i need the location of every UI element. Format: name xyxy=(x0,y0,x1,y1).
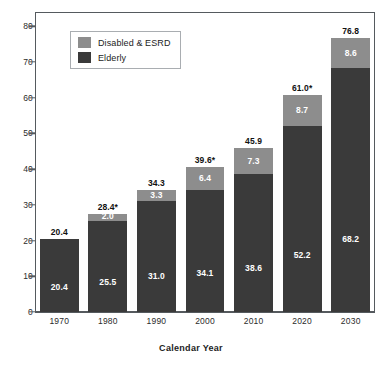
bar-group[interactable]: 38.67.345.9 xyxy=(234,12,273,312)
bar-value-label-disabled-esrd: 3.3 xyxy=(137,190,176,200)
x-axis-tick-label: 2010 xyxy=(229,316,278,326)
x-axis-tick-label: 1990 xyxy=(132,316,181,326)
x-axis-tick-label: 2030 xyxy=(326,316,375,326)
bar-segment-elderly[interactable]: 38.6 xyxy=(234,174,273,312)
bar-group[interactable]: 52.28.761.0* xyxy=(283,12,322,312)
bar-segment-elderly[interactable]: 52.2 xyxy=(283,126,322,312)
chart-legend: Disabled & ESRD Elderly xyxy=(70,31,181,69)
bar-segment-disabled-esrd[interactable]: 2.0 xyxy=(88,214,127,221)
bar-segment-disabled-esrd[interactable]: 3.3 xyxy=(137,190,176,202)
bar-value-label-disabled-esrd: 7.3 xyxy=(234,156,273,166)
bar-value-label-disabled-esrd: 8.7 xyxy=(283,105,322,115)
bar-value-label-disabled-esrd: 2.0 xyxy=(88,211,127,221)
legend-label-elderly: Elderly xyxy=(98,53,126,63)
bar-value-label-elderly: 31.0 xyxy=(137,271,176,281)
bar-segment-disabled-esrd[interactable]: 6.4 xyxy=(186,167,225,190)
x-axis-tick-label: 2020 xyxy=(278,316,327,326)
bar-total-label: 20.4 xyxy=(40,227,79,237)
bar-total-label: 34.3 xyxy=(137,178,176,188)
bar-segment-disabled-esrd[interactable]: 8.7 xyxy=(283,95,322,126)
bar-value-label-elderly: 38.6 xyxy=(234,263,273,273)
legend-item-elderly: Elderly xyxy=(78,52,171,63)
bar-segment-elderly[interactable]: 20.4 xyxy=(40,239,79,312)
bar-segment-disabled-esrd[interactable]: 7.3 xyxy=(234,148,273,174)
legend-item-disabled-esrd: Disabled & ESRD xyxy=(78,37,171,48)
x-axis-tick-label: 1970 xyxy=(35,316,84,326)
bar-total-label: 28.4* xyxy=(88,202,127,212)
x-axis-tick-label: 1980 xyxy=(84,316,133,326)
bar-segment-elderly[interactable]: 34.1 xyxy=(186,190,225,312)
legend-swatch-disabled-esrd xyxy=(78,37,91,48)
bar-group[interactable]: 34.16.439.6* xyxy=(186,12,225,312)
bar-value-label-elderly: 25.5 xyxy=(88,277,127,287)
bar-total-label: 76.8 xyxy=(331,26,370,36)
legend-swatch-elderly xyxy=(78,52,91,63)
x-axis-title: Calendar Year xyxy=(0,343,382,353)
bar-segment-elderly[interactable]: 68.2 xyxy=(331,68,370,312)
bar-value-label-elderly: 52.2 xyxy=(283,250,322,260)
x-axis-tick-label: 2000 xyxy=(181,316,230,326)
bar-total-label: 39.6* xyxy=(186,155,225,165)
bar-group[interactable]: 68.28.676.8 xyxy=(331,12,370,312)
bar-value-label-disabled-esrd: 6.4 xyxy=(186,173,225,183)
bar-segment-elderly[interactable]: 31.0 xyxy=(137,201,176,312)
bar-segment-disabled-esrd[interactable]: 8.6 xyxy=(331,38,370,69)
chart-figure: 01020304050607080 20.420.425.52.028.4*31… xyxy=(0,0,382,367)
legend-label-disabled-esrd: Disabled & ESRD xyxy=(98,38,171,48)
bar-value-label-disabled-esrd: 8.6 xyxy=(331,48,370,58)
bar-value-label-elderly: 34.1 xyxy=(186,268,225,278)
bar-value-label-elderly: 20.4 xyxy=(40,282,79,292)
bar-total-label: 45.9 xyxy=(234,136,273,146)
bar-segment-elderly[interactable]: 25.5 xyxy=(88,221,127,312)
bar-value-label-elderly: 68.2 xyxy=(331,234,370,244)
bar-total-label: 61.0* xyxy=(283,83,322,93)
